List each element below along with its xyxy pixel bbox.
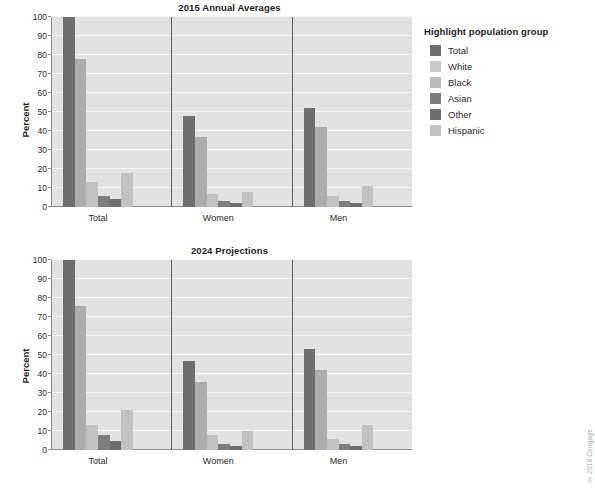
bar-total-women bbox=[183, 361, 195, 450]
bar-hispanic-men bbox=[362, 186, 374, 207]
gridline bbox=[51, 130, 412, 131]
bar-black-men bbox=[327, 196, 339, 207]
y-tick-mark bbox=[48, 278, 51, 279]
bar-hispanic-women bbox=[242, 431, 254, 450]
x-tick-label: Men bbox=[330, 456, 348, 466]
figure-root: 2015 Annual Averages Percent 01020304050… bbox=[0, 0, 595, 489]
y-tick-label: 80 bbox=[38, 50, 47, 60]
y-tick-label: 10 bbox=[38, 183, 47, 193]
y-tick-mark bbox=[48, 316, 51, 317]
y-tick-mark bbox=[48, 297, 51, 298]
gridline bbox=[51, 187, 412, 188]
bar-asian-total bbox=[98, 435, 110, 450]
legend-items: TotalWhiteBlackAsianOtherHispanic bbox=[424, 42, 589, 138]
bar-asian-men bbox=[339, 444, 351, 450]
bar-other-women bbox=[230, 446, 242, 450]
plot-background-2024 bbox=[51, 260, 412, 450]
gridline bbox=[51, 316, 412, 317]
bar-black-total bbox=[86, 182, 98, 207]
gridline bbox=[51, 430, 412, 431]
bar-hispanic-total bbox=[121, 410, 133, 450]
bar-hispanic-women bbox=[242, 192, 254, 207]
bar-other-men bbox=[350, 446, 362, 450]
y-axis-label-2015: Percent bbox=[20, 103, 31, 138]
bar-black-women bbox=[207, 194, 219, 207]
legend-swatch-icon bbox=[430, 93, 441, 104]
legend-title: Highlight population group bbox=[424, 26, 589, 37]
y-tick-mark bbox=[48, 411, 51, 412]
gridline bbox=[51, 354, 412, 355]
gridline bbox=[51, 168, 412, 169]
y-tick-label: 100 bbox=[33, 255, 47, 265]
bar-white-total bbox=[75, 306, 87, 450]
legend-item-total[interactable]: Total bbox=[424, 42, 589, 58]
y-tick-mark bbox=[48, 35, 51, 36]
gridline bbox=[51, 111, 412, 112]
y-tick-mark bbox=[48, 168, 51, 169]
legend-item-label: White bbox=[448, 61, 472, 72]
x-tick-label: Total bbox=[88, 456, 107, 466]
legend-item-asian[interactable]: Asian bbox=[424, 90, 589, 106]
y-tick-label: 0 bbox=[42, 445, 47, 455]
plot-background-2015 bbox=[51, 17, 412, 207]
bar-other-men bbox=[350, 203, 362, 207]
legend-swatch-icon bbox=[430, 109, 441, 120]
y-tick-mark bbox=[48, 430, 51, 431]
y-tick-label: 10 bbox=[38, 426, 47, 436]
y-tick-mark bbox=[48, 354, 51, 355]
legend-item-other[interactable]: Other bbox=[424, 106, 589, 122]
y-tick-mark bbox=[48, 54, 51, 55]
legend-item-white[interactable]: White bbox=[424, 58, 589, 74]
y-tick-label: 0 bbox=[42, 202, 47, 212]
bar-hispanic-total bbox=[121, 173, 133, 207]
bar-white-women bbox=[195, 382, 207, 450]
bar-black-men bbox=[327, 439, 339, 450]
y-tick-label: 80 bbox=[38, 293, 47, 303]
gridline bbox=[51, 149, 412, 150]
gridline bbox=[51, 92, 412, 93]
y-tick-label: 60 bbox=[38, 331, 47, 341]
legend-item-hispanic[interactable]: Hispanic bbox=[424, 122, 589, 138]
bar-asian-total bbox=[98, 196, 110, 207]
chart-panel-2024: 2024 Projections Percent 010203040506070… bbox=[0, 243, 430, 489]
bar-other-women bbox=[230, 203, 242, 207]
bar-other-total bbox=[110, 441, 122, 451]
gridline bbox=[51, 259, 412, 260]
y-tick-label: 40 bbox=[38, 369, 47, 379]
legend-swatch-icon bbox=[430, 45, 441, 56]
y-axis-label-2024: Percent bbox=[20, 349, 31, 384]
gridline bbox=[51, 16, 412, 17]
chart-title-2015: 2015 Annual Averages bbox=[52, 2, 407, 13]
bar-asian-women bbox=[218, 444, 230, 450]
group-separator bbox=[171, 260, 172, 450]
y-axis-2024 bbox=[51, 260, 52, 450]
bar-hispanic-men bbox=[362, 425, 374, 450]
gridline bbox=[51, 297, 412, 298]
bar-black-women bbox=[207, 435, 219, 450]
legend-item-label: Asian bbox=[448, 93, 472, 104]
y-tick-label: 100 bbox=[33, 12, 47, 22]
y-tick-mark bbox=[48, 187, 51, 188]
bar-asian-women bbox=[218, 201, 230, 207]
group-separator bbox=[171, 17, 172, 207]
y-tick-mark bbox=[48, 130, 51, 131]
bar-white-total bbox=[75, 59, 87, 207]
y-tick-mark bbox=[48, 392, 51, 393]
chart-title-2024: 2024 Projections bbox=[52, 245, 407, 256]
plot-area-2015: 0102030405060708090100 TotalWomenMen bbox=[51, 17, 412, 207]
y-tick-label: 90 bbox=[38, 274, 47, 284]
legend-item-black[interactable]: Black bbox=[424, 74, 589, 90]
y-tick-mark bbox=[48, 449, 51, 450]
y-tick-label: 40 bbox=[38, 126, 47, 136]
legend-swatch-icon bbox=[430, 61, 441, 72]
y-tick-label: 50 bbox=[38, 107, 47, 117]
bar-white-men bbox=[315, 370, 327, 450]
y-tick-label: 70 bbox=[38, 69, 47, 79]
y-tick-mark bbox=[48, 92, 51, 93]
gridline bbox=[51, 73, 412, 74]
y-tick-label: 60 bbox=[38, 88, 47, 98]
y-tick-label: 30 bbox=[38, 388, 47, 398]
y-tick-label: 30 bbox=[38, 145, 47, 155]
gridline bbox=[51, 411, 412, 412]
copyright-watermark: © 2018 Cengage bbox=[586, 429, 593, 483]
